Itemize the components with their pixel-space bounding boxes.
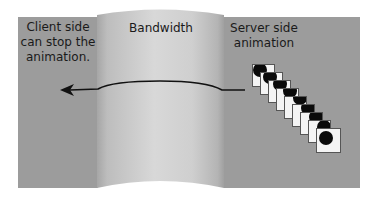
client-side-label: Client side can stop the animation.	[18, 20, 98, 65]
ball-frame-icon	[316, 128, 341, 153]
server-side-label: Server side animation	[230, 21, 298, 51]
bandwidth-label: Bandwidth	[98, 21, 224, 36]
diagram: Client side can stop the animation. Band…	[0, 0, 378, 204]
